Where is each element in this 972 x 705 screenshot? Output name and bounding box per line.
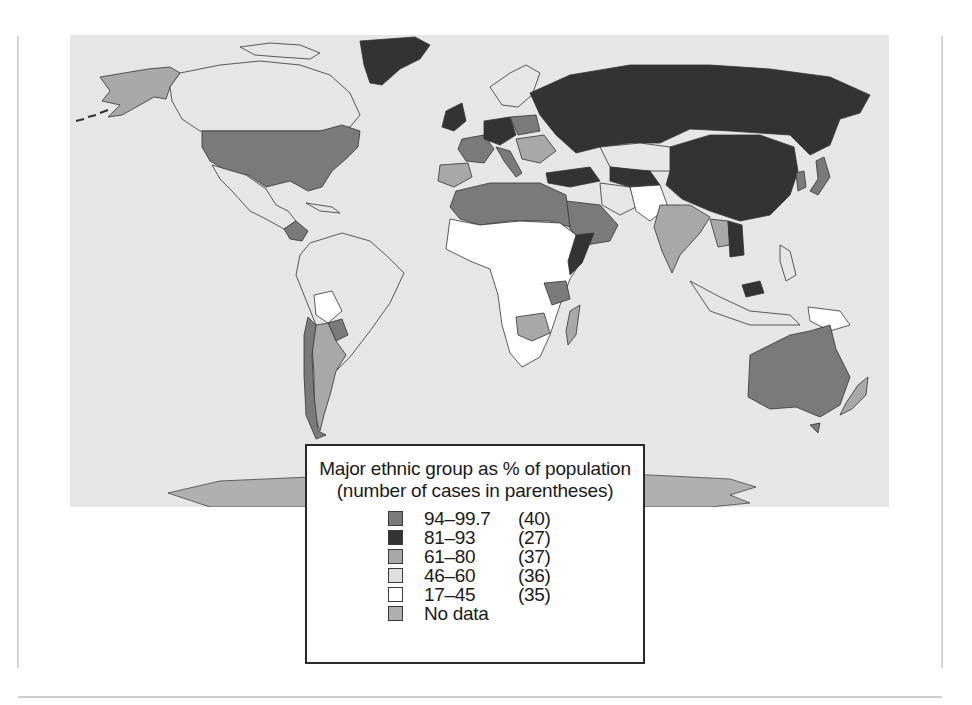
region-turkey — [546, 167, 600, 187]
region-scandinavia — [490, 65, 540, 107]
legend-rows: 94–99.7 (40) 81–93 (27) 61–80 (37) 46–60… — [388, 509, 551, 623]
swatch-no-data — [388, 606, 403, 621]
region-north-africa — [450, 183, 570, 227]
frame-left-border — [17, 36, 19, 668]
legend-title-line2: (number of cases in parentheses) — [307, 480, 643, 502]
region-balkans — [516, 135, 556, 163]
bottom-rule — [18, 696, 942, 698]
region-philippines — [780, 245, 796, 281]
region-japan — [810, 157, 830, 195]
region-madagascar — [566, 305, 580, 345]
swatch-61-80 — [388, 549, 403, 564]
region-tasmania — [810, 423, 820, 433]
legend-row-81-93: 81–93 (27) — [388, 528, 551, 547]
region-thailand — [710, 219, 730, 247]
region-canada — [170, 61, 360, 131]
swatch-94-99 — [388, 511, 403, 526]
legend-row-no-data: No data — [388, 604, 551, 623]
swatch-46-60 — [388, 568, 403, 583]
region-aleutians — [76, 110, 108, 121]
region-italy — [496, 147, 522, 177]
region-korea — [796, 171, 806, 191]
legend-range: No data — [424, 603, 518, 625]
region-greenland — [360, 37, 430, 85]
swatch-81-93 — [388, 530, 403, 545]
region-caribbean — [306, 203, 340, 213]
region-malaysia — [742, 281, 764, 297]
legend-title: Major ethnic group as % of population (n… — [307, 458, 643, 502]
region-india — [654, 205, 710, 273]
region-vietnam — [728, 221, 744, 257]
region-arctic-islands — [240, 43, 320, 59]
region-spain — [438, 163, 472, 187]
legend-row-94-99: 94–99.7 (40) — [388, 509, 551, 528]
frame-right-border — [941, 36, 943, 668]
legend-count: (35) — [518, 584, 551, 606]
legend-row-61-80: 61–80 (37) — [388, 547, 551, 566]
region-uk — [442, 103, 466, 131]
legend-row-46-60: 46–60 (36) — [388, 566, 551, 585]
region-alaska — [100, 67, 180, 117]
region-australia — [748, 325, 850, 417]
legend-row-17-45: 17–45 (35) — [388, 585, 551, 604]
legend-title-line1: Major ethnic group as % of population — [307, 458, 643, 480]
legend-box: Major ethnic group as % of population (n… — [305, 444, 645, 664]
world-map — [70, 35, 889, 507]
swatch-17-45 — [388, 587, 403, 602]
region-germany — [484, 117, 516, 145]
